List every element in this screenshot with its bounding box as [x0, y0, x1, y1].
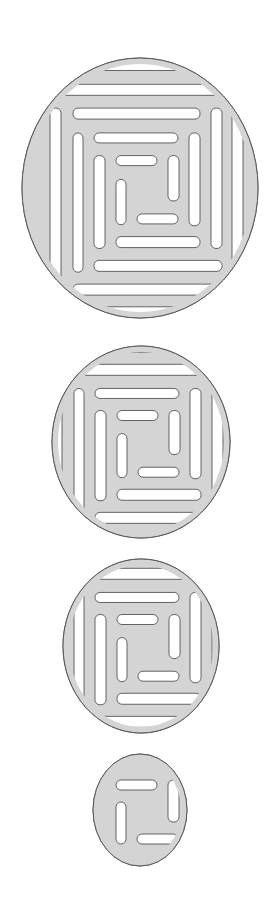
slot-left: [95, 411, 106, 501]
slot-top: [73, 108, 200, 119]
slot-top: [95, 388, 179, 398]
slot-bottom: [95, 512, 223, 523]
spiral-grate-disks: [0, 0, 272, 905]
slot-top: [116, 780, 157, 790]
slot-right: [211, 108, 222, 248]
slot-right: [233, 341, 244, 524]
slot-bottom: [117, 489, 201, 500]
slot-top: [51, 84, 223, 95]
graphic-stage: [0, 0, 272, 905]
slot-right: [190, 592, 201, 682]
slot-right: [190, 388, 201, 478]
slot-left: [94, 156, 105, 249]
slot-right: [168, 156, 179, 201]
slot-bottom: [138, 671, 179, 681]
slot-top: [95, 592, 179, 602]
slot-top: [117, 615, 158, 625]
slot-left: [95, 615, 106, 705]
disk-large: [16, 58, 265, 318]
disk-small: [51, 545, 244, 751]
slot-bottom: [138, 467, 179, 477]
disk-tiny: [93, 754, 187, 866]
slot-bottom: [94, 260, 222, 271]
disk-medium: [51, 341, 244, 547]
slot-left: [51, 568, 62, 751]
slot-bottom: [116, 237, 200, 248]
slot-bottom: [117, 693, 201, 704]
slot-bottom: [137, 214, 178, 224]
disks-layer: [16, 58, 265, 866]
slot-left: [73, 133, 83, 272]
slot-bottom: [74, 535, 244, 546]
slot-right: [233, 545, 244, 728]
slot-bottom: [74, 739, 244, 750]
slot-right: [169, 615, 180, 659]
slot-top: [94, 133, 178, 143]
slot-top: [117, 411, 158, 421]
slot-left: [74, 592, 84, 727]
slot-top: [52, 545, 224, 556]
slot-right: [189, 133, 200, 226]
slot-left: [116, 802, 126, 844]
slot-left: [117, 434, 127, 478]
slot-left: [117, 638, 127, 682]
slot-left: [116, 179, 126, 224]
slot-top: [116, 156, 157, 166]
slot-right: [169, 411, 180, 455]
